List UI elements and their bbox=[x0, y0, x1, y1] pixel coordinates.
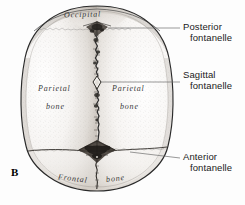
label-posterior-fontanelle: Posterior fontanelle bbox=[183, 22, 232, 43]
label-posterior-fontanelle-line2: fontanelle bbox=[183, 33, 232, 44]
label-anterior-fontanelle: Anterior fontanelle bbox=[183, 152, 232, 173]
label-parietal-bone-left: Parietal bbox=[38, 84, 71, 93]
label-parietal-bone-right-2: bone bbox=[120, 102, 139, 111]
label-posterior-fontanelle-line1: Posterior bbox=[183, 21, 222, 32]
label-parietal-bone-right: Parietal bbox=[112, 84, 145, 93]
label-parietal-bone-left-2: bone bbox=[46, 102, 65, 111]
label-anterior-fontanelle-line1: Anterior bbox=[183, 151, 217, 162]
label-sagittal-fontanelle-line2: fontanelle bbox=[183, 81, 232, 92]
label-sagittal-fontanelle-line1: Sagittal bbox=[183, 69, 216, 80]
label-sagittal-fontanelle: Sagittal fontanelle bbox=[183, 70, 232, 91]
label-occipital-bone: Occipital bbox=[64, 10, 101, 20]
label-anterior-fontanelle-line2: fontanelle bbox=[183, 163, 232, 174]
panel-letter: B bbox=[11, 166, 18, 178]
